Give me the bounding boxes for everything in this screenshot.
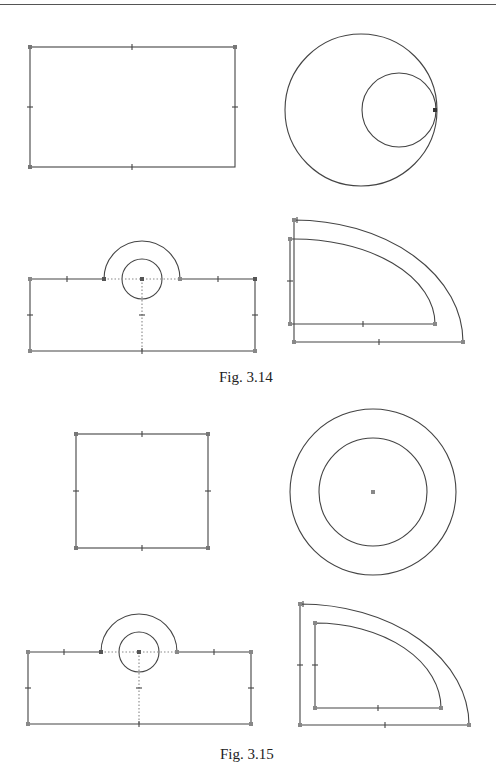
fig315-quarter-annulus — [297, 601, 471, 728]
fig314-slot-with-arc — [27, 241, 258, 354]
fig315-slot-with-arc — [25, 614, 254, 727]
fig314-rectangle — [27, 44, 238, 170]
figure-caption: Fig. 3.14 — [219, 369, 273, 386]
figure-caption: Fig. 3.15 — [220, 746, 274, 763]
fig314-quarter-annulus — [287, 217, 465, 345]
fig315-square — [73, 431, 211, 551]
fig314-tangent-circles — [285, 34, 437, 186]
figures-canvas — [0, 0, 496, 781]
fig315-concentric-circles — [290, 409, 456, 575]
